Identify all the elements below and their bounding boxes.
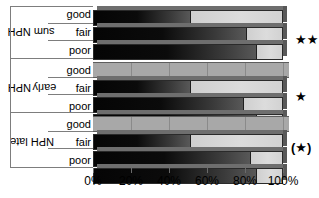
group-label-nph-late: NPH late good fair poor [10, 116, 93, 168]
category-label-good: good [53, 116, 91, 132]
category-label-poor: poor [53, 152, 91, 168]
x-tick-40 [169, 168, 170, 173]
bar-nph-sum-poor[interactable] [93, 44, 283, 60]
label-divider [10, 58, 93, 59]
group-label-nph-sum: NPHsum good fair poor [10, 6, 93, 58]
group-name-line1: NPH late [10, 136, 54, 148]
x-axis-label-0: 0% [73, 174, 113, 188]
group-name-nph-early: NPHearly [10, 62, 54, 114]
bar-group-nph-late [93, 114, 289, 166]
x-tick-0 [93, 168, 94, 173]
bar-side-face [283, 6, 287, 22]
significance-marker-nph-late: (★) [291, 141, 311, 155]
x-tick-20 [131, 168, 132, 173]
bar-side-face [283, 147, 287, 163]
label-divider [48, 23, 93, 24]
label-divider [10, 6, 93, 7]
category-label-good: good [53, 6, 91, 22]
x-axis-label-80: 80% [225, 174, 265, 188]
label-divider [48, 148, 93, 149]
bar-group-nph-sum [93, 6, 289, 58]
plot-area [93, 6, 283, 168]
bar-side-face [283, 93, 287, 109]
category-label-poor: poor [53, 42, 91, 58]
label-divider [48, 131, 93, 132]
significance-marker-nph-sum: ★★ [295, 33, 318, 47]
bar-side-face [283, 130, 287, 146]
stacked-bar-chart: NPHsum good fair poor NPHearly good fair… [0, 0, 319, 198]
group-name-line1: NPH [8, 26, 31, 39]
x-axis-labels: 0% 20% 40% 60% 80% 100% [0, 174, 319, 194]
category-labels-nph-late: good fair poor [53, 116, 91, 168]
group-label-nph-early: NPHearly good fair poor [10, 62, 93, 114]
group-name-line1: NPH [8, 82, 32, 95]
category-labels-nph-early: good fair poor [53, 62, 91, 114]
category-label-good: good [53, 62, 91, 78]
x-tick-100 [283, 168, 284, 173]
x-axis-label-60: 60% [187, 174, 227, 188]
label-divider [48, 40, 93, 41]
group-name-nph-late: NPH late [10, 116, 54, 168]
category-label-fair: fair [53, 24, 91, 40]
x-axis-label-20: 20% [111, 174, 151, 188]
label-divider [48, 77, 93, 78]
label-divider [10, 112, 93, 113]
group-name-nph-sum: NPHsum [10, 6, 54, 58]
label-divider [48, 94, 93, 95]
x-tick-60 [207, 168, 208, 173]
bar-segment-3 [256, 45, 282, 59]
label-divider [10, 167, 93, 168]
bar-side-face [283, 76, 287, 92]
x-tick-80 [245, 168, 246, 173]
x-axis-label-100: 100% [263, 174, 303, 188]
bar-group-nph-early [93, 60, 289, 112]
category-labels-nph-sum: good fair poor [53, 6, 91, 58]
label-divider-vertical [10, 6, 11, 167]
bar-segment-1 [94, 45, 256, 59]
bar-side-face [283, 23, 287, 39]
y-axis-label-block: NPHsum good fair poor NPHearly good fair… [10, 6, 93, 168]
x-axis-label-40: 40% [149, 174, 189, 188]
bar-side-face [283, 40, 287, 56]
significance-marker-nph-early: ★ [295, 90, 307, 104]
